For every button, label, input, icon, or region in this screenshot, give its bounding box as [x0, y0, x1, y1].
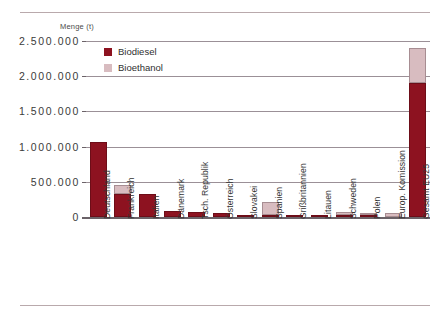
y-axis-tick-mark [82, 111, 86, 112]
y-axis-tick-mark [82, 217, 86, 218]
gridline [86, 147, 430, 148]
y-axis-tick-mark [82, 147, 86, 148]
bar-segment-bioethanol [409, 48, 426, 83]
top-divider-rule [20, 12, 430, 13]
y-axis-tick-label: 2.000.000 [19, 70, 80, 82]
x-axis-tick-label: Schweden [348, 178, 358, 219]
x-axis-tick-label: Grißbritannien [298, 163, 308, 219]
y-axis-tick-labels: 2.500.0002.000.0001.500.0001.000.000500.… [0, 41, 80, 217]
x-axis-tick-label: Österreich [225, 178, 235, 219]
x-axis-tick-label: Frankreich [126, 177, 136, 219]
chart-page: Menge (t) 2.500.0002.000.0001.500.0001.0… [0, 0, 447, 320]
legend-swatch-icon [104, 64, 112, 72]
legend-label: Bioethanol [118, 62, 163, 73]
x-axis-tick-label: Slovakei [249, 186, 259, 219]
y-axis-tick-mark [82, 76, 86, 77]
x-axis-tick-label: Deutschland [102, 170, 112, 219]
x-axis-tick-label: Litauen [323, 190, 333, 219]
x-axis-tick-label: Italien [151, 195, 161, 219]
x-axis-tick-label: Polen [372, 197, 382, 219]
x-axis-tick-label: Spanien [274, 187, 284, 219]
x-axis-tick-label: Europ. Komission [397, 150, 407, 219]
y-axis-title: Menge (t) [60, 22, 94, 31]
x-axis-tick-label: Tsch. Republik [200, 162, 210, 219]
legend-swatch-icon [104, 48, 112, 56]
y-axis-tick-label: 1.500.000 [19, 105, 80, 117]
y-axis-tick-label: 500.000 [31, 176, 80, 188]
y-axis-tick-label: 2.500.000 [19, 35, 80, 47]
gridline [86, 111, 430, 112]
x-axis-tick-label: Dänemark [176, 179, 186, 219]
y-axis-tick-label: 1.000.000 [19, 141, 80, 153]
bottom-divider-rule [20, 305, 430, 306]
x-axis-tick-label: Gesamt EU25 [421, 164, 431, 219]
y-axis-tick-label: 0 [73, 211, 80, 223]
gridline [86, 41, 430, 42]
y-axis-tick-mark [82, 41, 86, 42]
legend-label: Biodiesel [118, 46, 157, 57]
chart-legend: BiodieselBioethanol [104, 45, 163, 77]
y-axis-tick-mark [82, 182, 86, 183]
legend-item: Bioethanol [104, 61, 163, 74]
legend-item: Biodiesel [104, 45, 163, 58]
x-axis-tick-labels: DeutschlandFrankreichItalienDänemarkTsch… [86, 219, 430, 303]
gridline [86, 182, 430, 183]
